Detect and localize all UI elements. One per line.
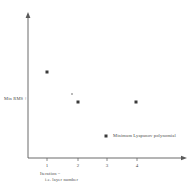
data-point <box>46 71 49 74</box>
data-point <box>71 93 73 95</box>
x-tick-label: 3 <box>106 163 109 168</box>
plot-area: 1 2 3 4 Minimum Lyapunov polynomial Min … <box>0 0 196 193</box>
y-axis-arrow-icon <box>26 12 31 18</box>
axes-group <box>0 0 196 193</box>
data-point <box>135 101 138 104</box>
chart-annotation: Minimum Lyapunov polynomial <box>113 133 176 138</box>
data-point <box>105 135 108 138</box>
x-tick-label: 4 <box>136 163 139 168</box>
x-axis-label-line1: Iteration = <box>40 171 61 176</box>
x-tick-label: 2 <box>77 163 80 168</box>
chart-figure: 1 2 3 4 Minimum Lyapunov polynomial Min … <box>0 0 196 193</box>
x-tick-label: 1 <box>46 163 49 168</box>
y-axis-label: Min RMS ↑ <box>4 96 27 101</box>
x-axis-arrow-icon <box>181 156 187 160</box>
x-axis-label-line2: i.e. layer number <box>40 177 78 183</box>
data-point <box>77 101 80 104</box>
x-axis-label: Iteration = i.e. layer number <box>40 171 78 183</box>
